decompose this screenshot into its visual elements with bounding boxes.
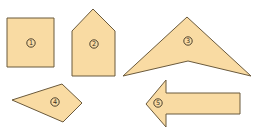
shape-5-label: 5 — [156, 99, 160, 107]
shapes-diagram: 1 2 3 4 5 — [0, 0, 256, 129]
shape-5-arrow: 5 — [146, 80, 240, 127]
shape-2-label: 2 — [92, 40, 96, 48]
shape-4-label: 4 — [53, 98, 57, 106]
shape-1-square: 1 — [7, 18, 54, 67]
shape-4-quadrilateral: 4 — [12, 84, 82, 122]
shape-2-pentagon: 2 — [72, 9, 115, 76]
shape-3-label: 3 — [186, 37, 190, 45]
shape-1-label: 1 — [29, 39, 33, 47]
shape-3-concave-quadrilateral: 3 — [123, 17, 251, 76]
